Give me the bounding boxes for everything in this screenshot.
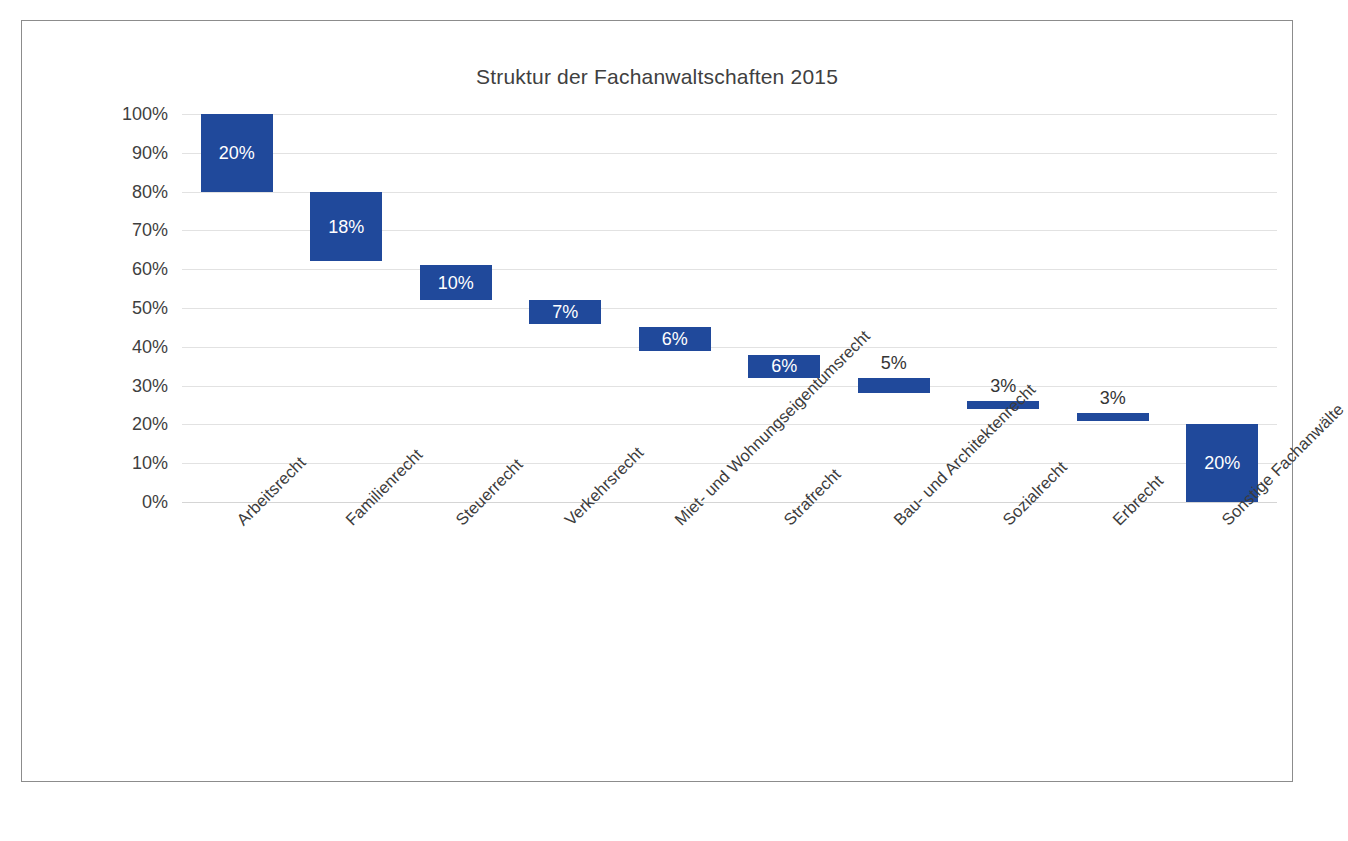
y-axis-tick-label: 70% — [88, 220, 168, 241]
plot-area: 100%90%80%70%60%50%40%30%20%10%0%20%18%1… — [182, 114, 1277, 502]
y-axis-tick-label: 80% — [88, 181, 168, 202]
bar-value-label: 20% — [201, 142, 273, 163]
gridline — [182, 153, 1277, 154]
y-axis-tick-label: 90% — [88, 142, 168, 163]
bar-value-label: 3% — [949, 376, 1059, 397]
y-axis-tick-label: 40% — [88, 336, 168, 357]
chart-title: Struktur der Fachanwaltschaften 2015 — [22, 65, 1292, 89]
y-axis-tick-label: 30% — [88, 375, 168, 396]
bar-value-label: 7% — [529, 301, 601, 322]
y-axis-tick-label: 60% — [88, 259, 168, 280]
gridline — [182, 347, 1277, 348]
gridline — [182, 114, 1277, 115]
bar-value-label: 6% — [639, 329, 711, 350]
bar-value-label: 20% — [1186, 453, 1258, 474]
waterfall-bar[interactable] — [858, 378, 930, 394]
y-axis-tick-label: 50% — [88, 298, 168, 319]
gridline — [182, 269, 1277, 270]
y-axis-tick-label: 20% — [88, 414, 168, 435]
gridline — [182, 502, 1277, 503]
bar-value-label: 6% — [748, 356, 820, 377]
y-axis-tick-label: 10% — [88, 453, 168, 474]
gridline — [182, 424, 1277, 425]
waterfall-bar[interactable] — [1077, 413, 1149, 421]
gridline — [182, 308, 1277, 309]
chart-frame: Struktur der Fachanwaltschaften 2015 100… — [21, 20, 1293, 782]
gridline — [182, 386, 1277, 387]
bar-value-label: 10% — [420, 272, 492, 293]
bar-value-label: 18% — [310, 216, 382, 237]
y-axis-tick-label: 100% — [88, 104, 168, 125]
y-axis-tick-label: 0% — [88, 492, 168, 513]
bar-value-label: 3% — [1058, 388, 1168, 409]
